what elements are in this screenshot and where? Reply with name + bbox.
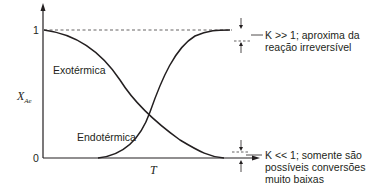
x-axis xyxy=(43,156,260,161)
top-annotation-line2: reação irreversível xyxy=(265,41,360,53)
top-annotation-text: K >> 1; aproxima da reação irreversível xyxy=(265,29,360,53)
y-axis-label-subscript: Ae xyxy=(24,97,31,105)
top-annotation-markers xyxy=(234,18,263,53)
x-axis-arrow-icon xyxy=(252,156,260,161)
y-tick-0: 0 xyxy=(33,152,39,164)
bottom-annotation-text: K << 1; somente são possíveis conversões… xyxy=(265,149,365,185)
y-axis-label: XAe xyxy=(17,90,32,107)
bottom-annotation-line2: possíveis conversões xyxy=(265,161,365,173)
equilibrium-conversion-diagram: 1 0 XAe T Exotérmica Endotérmica K >> 1;… xyxy=(0,0,375,190)
bottom-annotation-line1: K << 1; somente são xyxy=(265,149,365,161)
y-tick-1: 1 xyxy=(33,24,39,36)
y-axis-arrow-icon xyxy=(41,3,46,11)
down-arrow-icon xyxy=(239,147,243,151)
x-axis-label: T xyxy=(150,164,157,176)
bottom-annotation-markers xyxy=(232,140,262,172)
down-arrow-icon xyxy=(239,25,243,29)
endothermic-label: Endotérmica xyxy=(77,131,136,143)
y-axis xyxy=(41,3,46,158)
top-annotation-line1: K >> 1; aproxima da xyxy=(265,29,360,41)
bottom-annotation-line3: muito baixas xyxy=(265,173,365,185)
exothermic-label: Exotérmica xyxy=(53,64,106,76)
up-arrow-icon xyxy=(239,160,243,164)
up-arrow-icon xyxy=(239,42,243,46)
